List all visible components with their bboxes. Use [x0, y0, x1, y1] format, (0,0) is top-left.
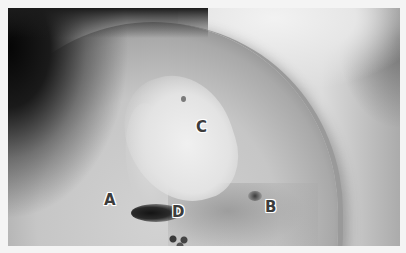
label-b: B: [265, 200, 276, 215]
label-a: A: [104, 193, 116, 208]
pigmented-spots-bottom: [168, 234, 198, 246]
label-d: D: [172, 205, 184, 220]
pigmented-spot-b: [248, 191, 262, 201]
label-c: C: [196, 120, 207, 135]
dark-shadow-top: [8, 8, 208, 38]
small-spot: [181, 96, 186, 102]
